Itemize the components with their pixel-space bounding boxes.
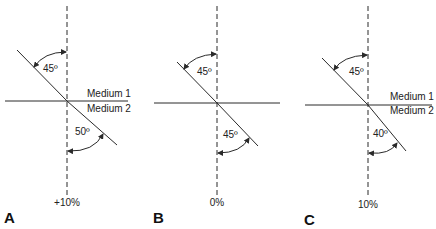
panel-a-refracted-angle-label: 50º: [75, 126, 90, 137]
panel-b-incident-angle-label: 45º: [197, 66, 212, 77]
panel-b-refracted-angle-arc: [218, 138, 249, 153]
panel-c-refracted-angle-label: 40º: [373, 128, 388, 139]
panel-a-diagram: [5, 6, 128, 195]
panel-a-incident-angle-label: 45º: [43, 63, 58, 74]
panel-c-label: C: [304, 211, 315, 228]
panel-a-label: A: [4, 209, 15, 226]
panel-b-bottom-label: 0%: [210, 197, 224, 208]
panel-c-medium-2-label: Medium 2: [390, 105, 434, 116]
panel-c-incident-angle-label: 45º: [349, 66, 364, 77]
panel-c-diagram: [305, 6, 432, 198]
panel-c-refracted-angle-arc: [369, 143, 397, 153]
panel-a-bottom-label: +10%: [54, 197, 80, 208]
panel-c-bottom-label: 10%: [358, 199, 378, 210]
panel-b-diagram: [154, 6, 280, 195]
panel-a-medium-2-label: Medium 2: [87, 103, 131, 114]
refraction-diagram: [0, 0, 436, 229]
panel-b-refracted-angle-label: 45º: [223, 129, 238, 140]
panel-a-incident-ray: [17, 50, 67, 101]
panel-c-medium-1-label: Medium 1: [390, 91, 434, 102]
panel-b-label: B: [153, 209, 164, 226]
panel-a-medium-1-label: Medium 1: [87, 88, 131, 99]
